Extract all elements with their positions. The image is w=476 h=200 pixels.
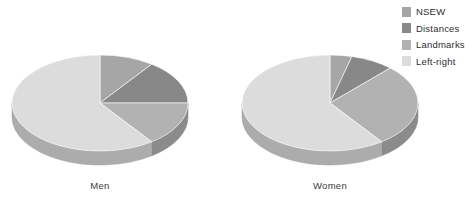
pie-men: [12, 55, 188, 165]
pie-women: [242, 55, 418, 165]
legend: NSEW Distances Landmarks Left-right: [402, 4, 476, 70]
pie-label-women: Women: [313, 180, 347, 191]
legend-label-left-right: Left-right: [416, 56, 456, 67]
legend-item-nsew[interactable]: NSEW: [402, 4, 476, 19]
legend-label-distances: Distances: [416, 23, 460, 34]
legend-item-left-right[interactable]: Left-right: [402, 54, 476, 69]
legend-swatch-distances: [402, 23, 411, 33]
legend-swatch-landmarks: [402, 40, 411, 50]
pie-chart-figure: Men Women NSEW Distances Landmarks Left-…: [0, 0, 476, 200]
legend-item-landmarks[interactable]: Landmarks: [402, 37, 476, 52]
pie-label-men: Men: [90, 180, 109, 191]
legend-swatch-left-right: [402, 56, 411, 66]
legend-item-distances[interactable]: Distances: [402, 21, 476, 36]
legend-label-nsew: NSEW: [416, 6, 445, 17]
legend-label-landmarks: Landmarks: [416, 39, 465, 50]
legend-swatch-nsew: [402, 7, 411, 17]
